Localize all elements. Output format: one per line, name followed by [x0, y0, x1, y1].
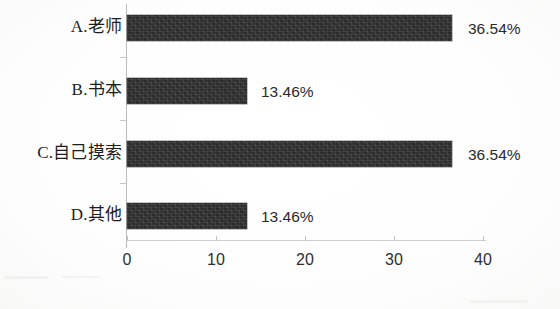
- x-tick-label-0: 0: [104, 251, 150, 269]
- y-tick-mark: [120, 57, 126, 58]
- x-tick-mark-0: [127, 236, 128, 241]
- bar-a: [127, 15, 452, 41]
- bar-b: [127, 78, 247, 104]
- x-tick-label-10: 10: [193, 251, 239, 269]
- bar-chart: A.老师 B.书本 C.自己摸索 D.其他 36.54% 13.46% 36.5…: [0, 0, 560, 309]
- x-tick-mark-20: [305, 236, 306, 241]
- x-tick-label-40: 40: [460, 251, 506, 269]
- scan-artifact: [4, 276, 48, 279]
- y-tick-mark: [120, 183, 126, 184]
- value-label-b: 13.46%: [261, 83, 314, 100]
- plot-area: [127, 0, 483, 241]
- x-tick-mark-40: [483, 236, 484, 241]
- x-tick-mark-10: [216, 236, 217, 241]
- category-label-d: D.其他: [0, 205, 122, 224]
- category-label-c: C.自己摸索: [0, 143, 122, 162]
- value-label-a: 36.54%: [468, 20, 521, 37]
- x-tick-mark-30: [394, 236, 395, 241]
- value-label-c: 36.54%: [468, 146, 521, 163]
- x-tick-label-30: 30: [371, 251, 417, 269]
- value-label-d: 13.46%: [261, 208, 314, 225]
- y-tick-mark: [120, 120, 126, 121]
- bar-d: [127, 203, 247, 229]
- scan-artifact: [62, 276, 100, 278]
- scan-artifact: [470, 300, 528, 303]
- x-tick-label-20: 20: [282, 251, 328, 269]
- category-label-b: B.书本: [0, 80, 122, 99]
- category-label-a: A.老师: [0, 17, 122, 36]
- bar-c: [127, 141, 452, 167]
